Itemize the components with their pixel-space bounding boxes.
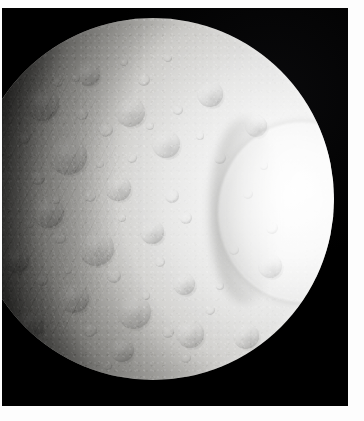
photo-frame (2, 8, 348, 406)
moon-disk (2, 18, 334, 380)
moon-scene (2, 8, 348, 406)
image-canvas: Grayscale spacecraft photograph of Satur… (0, 0, 364, 421)
